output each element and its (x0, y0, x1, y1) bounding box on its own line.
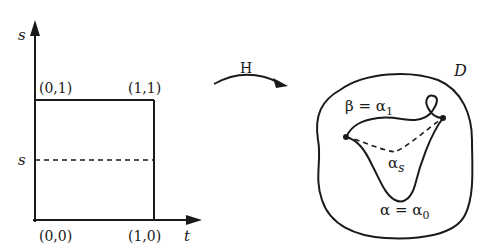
corner-label-top-right: (1,1) (128, 80, 161, 96)
dashed-line-label: s (18, 151, 26, 169)
s-axis-arrowhead-icon (30, 20, 40, 36)
alpha-label-main: α = α (380, 201, 422, 219)
region-d-label: D (453, 61, 467, 80)
mapping-arrow: H (214, 60, 288, 88)
beta-label-subscript: 1 (386, 105, 393, 118)
beta-label-main: β = α (345, 97, 386, 115)
corner-label-top-left: (0,1) (39, 80, 72, 96)
endpoint-end (440, 115, 446, 121)
alpha-label: α = α0 (380, 201, 429, 222)
s-axis-label: s (18, 26, 26, 44)
alpha-s-label-subscript: s (398, 161, 404, 175)
mapping-label: H (240, 60, 252, 76)
endpoint-start (343, 134, 349, 140)
beta-label: β = α1 (345, 97, 393, 118)
corner-label-bottom-right: (1,0) (128, 228, 161, 244)
curved-arrowhead-icon (273, 78, 288, 88)
alpha-s-label: αs (388, 154, 404, 175)
curved-arrow-icon (214, 75, 280, 84)
corner-label-bottom-left: (0,0) (39, 228, 72, 244)
parameter-square-panel: s (0,1) (1,1) s (0,0) (1,0) t (18, 20, 202, 245)
alpha-s-label-main: α (388, 154, 398, 172)
t-axis-arrowhead-icon (186, 215, 202, 225)
region-panel: D β = α1 αs α = α0 (317, 61, 472, 238)
homotopy-diagram: s (0,1) (1,1) s (0,0) (1,0) t H D β = α1… (0, 0, 490, 250)
t-axis-label: t (184, 227, 191, 245)
alpha-label-subscript: 0 (422, 209, 429, 222)
